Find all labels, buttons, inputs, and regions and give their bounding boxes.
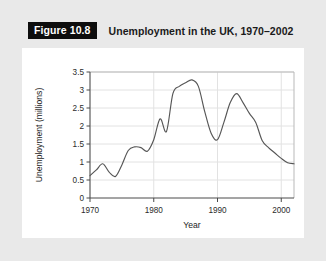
x-tick-label: 2000 bbox=[272, 206, 291, 215]
y-tick-label: 3 bbox=[79, 86, 84, 95]
figure-header: Figure 10.8 Unemployment in the UK, 1970… bbox=[28, 22, 293, 39]
y-tick-label: 2.5 bbox=[73, 104, 85, 113]
x-tick-label: 1980 bbox=[145, 206, 164, 215]
y-tick-label: 0 bbox=[79, 194, 84, 203]
y-tick-label: 0.5 bbox=[73, 176, 85, 185]
figure-number-badge: Figure 10.8 bbox=[28, 22, 97, 39]
y-tick-label: 3.5 bbox=[73, 68, 85, 77]
line-chart: 00.511.522.533.51970198019902000YearUnem… bbox=[22, 48, 304, 238]
chart-plot-area: 00.511.522.533.51970198019902000YearUnem… bbox=[22, 48, 304, 238]
y-tick-label: 1 bbox=[79, 158, 84, 167]
y-axis-title: Unemployment (millions) bbox=[34, 88, 44, 183]
figure-title: Unemployment in the UK, 1970–2002 bbox=[109, 25, 294, 37]
y-tick-label: 1.5 bbox=[73, 140, 85, 149]
x-tick-label: 1970 bbox=[81, 206, 100, 215]
x-tick-label: 1990 bbox=[208, 206, 227, 215]
figure-container: Figure 10.8 Unemployment in the UK, 1970… bbox=[0, 0, 326, 261]
y-tick-label: 2 bbox=[79, 122, 84, 131]
chart-card: 00.511.522.533.51970198019902000YearUnem… bbox=[22, 48, 304, 238]
x-axis-title: Year bbox=[183, 220, 201, 230]
plot-frame bbox=[90, 72, 294, 198]
